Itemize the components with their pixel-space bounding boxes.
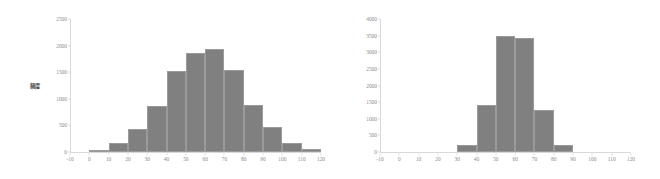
x-tick-label: 110 [608, 156, 616, 162]
histogram-bar [147, 106, 166, 152]
x-tick-mark [185, 153, 186, 156]
x-tick-mark [70, 153, 71, 156]
x-tick-label: 0 [398, 156, 401, 162]
x-tick-mark [301, 153, 302, 156]
x-tick-mark [263, 153, 264, 156]
histogram-bar [496, 36, 515, 152]
x-tick-mark [418, 153, 419, 156]
x-tick-label: 50 [183, 156, 188, 162]
x-tick-mark [592, 153, 593, 156]
histogram-bar [167, 71, 186, 152]
x-tick-mark [243, 153, 244, 156]
x-tick-label: 50 [493, 156, 498, 162]
x-tick-label: 60 [202, 156, 207, 162]
x-tick-mark [515, 153, 516, 156]
histogram-bar [534, 110, 553, 152]
y-tick-mark [378, 118, 381, 119]
y-tick-mark [68, 125, 71, 126]
y-tick-mark [378, 35, 381, 36]
x-tick-label: 40 [474, 156, 479, 162]
histogram-bar [128, 129, 147, 152]
x-tick-mark [282, 153, 283, 156]
y-axis-line [70, 19, 71, 153]
histogram-bar [224, 70, 243, 152]
histogram-bar [109, 143, 128, 152]
x-tick-mark [534, 153, 535, 156]
x-tick-mark [631, 153, 632, 156]
x-tick-mark [495, 153, 496, 156]
y-axis-label: 頻度 [30, 82, 40, 89]
y-tick-mark [378, 68, 381, 69]
y-tick-mark [68, 45, 71, 46]
x-tick-label: 70 [532, 156, 537, 162]
x-tick-mark [611, 153, 612, 156]
histogram-bar [263, 127, 282, 152]
x-tick-label: 0 [88, 156, 91, 162]
histogram-bar [302, 149, 321, 152]
y-tick-mark [378, 52, 381, 53]
x-tick-mark [457, 153, 458, 156]
x-tick-label: 120 [627, 156, 635, 162]
histogram-bar [554, 145, 573, 152]
x-tick-mark [380, 153, 381, 156]
histogram-bar [205, 49, 224, 152]
x-tick-label: 10 [416, 156, 421, 162]
x-tick-label: -10 [66, 156, 73, 162]
histogram-bar [89, 150, 108, 152]
histogram-bar [244, 105, 263, 152]
right-plot-area: 05001000150020002500300035004000-1001020… [380, 19, 631, 153]
y-tick-mark [378, 19, 381, 20]
x-tick-label: 90 [570, 156, 575, 162]
y-tick-mark [68, 19, 71, 20]
x-tick-label: 70 [222, 156, 227, 162]
x-tick-label: 60 [512, 156, 517, 162]
x-tick-label: -10 [376, 156, 383, 162]
x-tick-label: 10 [106, 156, 111, 162]
x-tick-label: 110 [298, 156, 306, 162]
x-tick-label: 20 [435, 156, 440, 162]
x-tick-label: 80 [551, 156, 556, 162]
y-tick-mark [378, 85, 381, 86]
x-tick-label: 90 [260, 156, 265, 162]
x-tick-mark [553, 153, 554, 156]
y-tick-mark [378, 135, 381, 136]
histogram-figure: 頻度 05001000150020002500-1001020304050607… [0, 0, 660, 179]
histogram-bar [186, 53, 205, 152]
x-tick-label: 80 [241, 156, 246, 162]
left-histogram-panel: 頻度 05001000150020002500-1001020304050607… [0, 0, 330, 179]
x-tick-label: 120 [317, 156, 325, 162]
x-tick-mark [476, 153, 477, 156]
y-tick-mark [68, 72, 71, 73]
x-tick-label: 40 [164, 156, 169, 162]
x-tick-label: 30 [145, 156, 150, 162]
histogram-bar [457, 145, 476, 152]
histogram-bar [515, 38, 534, 152]
x-tick-label: 30 [455, 156, 460, 162]
x-tick-label: 100 [278, 156, 286, 162]
x-tick-mark [147, 153, 148, 156]
left-plot-area: 05001000150020002500-1001020304050607080… [70, 19, 321, 153]
x-tick-label: 100 [588, 156, 596, 162]
y-axis-line [380, 19, 381, 153]
x-tick-mark [573, 153, 574, 156]
x-tick-mark [437, 153, 438, 156]
y-tick-mark [378, 102, 381, 103]
x-tick-mark [205, 153, 206, 156]
x-tick-mark [399, 153, 400, 156]
y-tick-mark [68, 98, 71, 99]
x-tick-mark [127, 153, 128, 156]
histogram-bar [477, 105, 496, 152]
x-tick-mark [108, 153, 109, 156]
right-histogram-panel: 05001000150020002500300035004000-1001020… [330, 0, 660, 179]
x-tick-mark [321, 153, 322, 156]
histogram-bar [282, 143, 301, 152]
x-tick-mark [89, 153, 90, 156]
x-tick-mark [166, 153, 167, 156]
x-tick-mark [224, 153, 225, 156]
x-tick-label: 20 [125, 156, 130, 162]
